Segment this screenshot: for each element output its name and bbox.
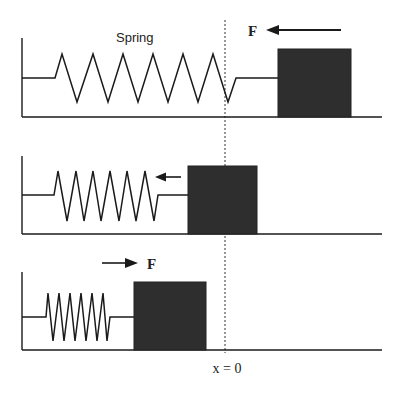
panel-compressed: F — [22, 256, 382, 350]
spring-mass-diagram: F Spring F x = 0 — [0, 0, 402, 395]
panel-stretched: F Spring — [22, 23, 382, 117]
panel-equilibrium — [22, 156, 382, 234]
mass-block — [278, 49, 351, 117]
arrowhead-icon — [125, 258, 138, 268]
arrowhead-icon — [155, 173, 166, 182]
spring — [22, 293, 134, 341]
force-label: F — [248, 23, 257, 39]
mass-block — [188, 166, 257, 234]
force-label: F — [147, 256, 156, 272]
spring-label: Spring — [116, 30, 154, 45]
origin-label: x = 0 — [213, 361, 242, 376]
spring — [22, 54, 278, 102]
mass-block — [134, 282, 206, 350]
arrowhead-icon — [266, 25, 279, 35]
